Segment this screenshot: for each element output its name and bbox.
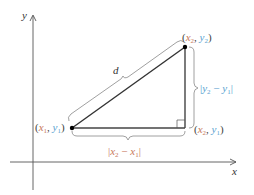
braces [68,41,198,141]
point-1-label: (x1, y1) [35,121,65,135]
point-1-dot [70,126,74,130]
distance-label: d [113,64,119,76]
x-axis-label: x [231,165,237,177]
horizontal-brace [72,131,185,140]
vertical-brace [189,47,198,128]
right-triangle [70,45,187,130]
point-2-label: (x2, y2) [182,31,212,45]
right-angle-marker [177,120,185,128]
vertical-leg-label: |y2 − y1| [200,82,233,96]
corner-point-label: (x2, y1) [194,123,224,137]
horizontal-leg-label: |x2 − x1| [108,145,141,159]
hypotenuse-brace [68,41,184,122]
y-axis-label: y [21,9,27,21]
point-2-dot [183,45,187,49]
distance-formula-diagram: y x d (x2, y2) (x1, y1) (x2, y1) |y2 − y… [0,0,254,195]
hypotenuse-d [72,47,185,128]
